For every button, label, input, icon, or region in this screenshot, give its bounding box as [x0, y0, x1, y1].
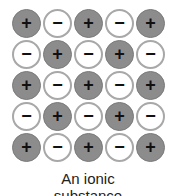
plus-icon: +	[52, 107, 63, 125]
anion-ion: −	[105, 71, 134, 100]
cation-ion: +	[12, 133, 41, 162]
minus-icon: −	[52, 76, 63, 94]
cation-ion: +	[105, 102, 134, 131]
anion-ion: −	[105, 133, 134, 162]
minus-icon: −	[21, 45, 32, 63]
anion-ion: −	[136, 40, 165, 69]
cation-ion: +	[12, 9, 41, 38]
cation-ion: +	[136, 133, 165, 162]
anion-ion: −	[136, 102, 165, 131]
plus-icon: +	[21, 76, 32, 94]
plus-icon: +	[83, 14, 94, 32]
cation-ion: +	[74, 9, 103, 38]
minus-icon: −	[52, 14, 63, 32]
minus-icon: −	[114, 14, 125, 32]
anion-ion: −	[74, 102, 103, 131]
plus-icon: +	[145, 14, 156, 32]
anion-ion: −	[105, 9, 134, 38]
minus-icon: −	[52, 138, 63, 156]
caption-line-1: An ionic	[0, 170, 176, 187]
minus-icon: −	[83, 45, 94, 63]
plus-icon: +	[145, 138, 156, 156]
cation-ion: +	[43, 40, 72, 69]
cation-ion: +	[105, 40, 134, 69]
cation-ion: +	[136, 9, 165, 38]
anion-ion: −	[12, 102, 41, 131]
anion-ion: −	[43, 71, 72, 100]
cation-ion: +	[43, 102, 72, 131]
cation-ion: +	[12, 71, 41, 100]
minus-icon: −	[83, 107, 94, 125]
plus-icon: +	[21, 14, 32, 32]
minus-icon: −	[145, 45, 156, 63]
minus-icon: −	[114, 76, 125, 94]
plus-icon: +	[145, 76, 156, 94]
plus-icon: +	[21, 138, 32, 156]
anion-ion: −	[74, 40, 103, 69]
cation-ion: +	[74, 71, 103, 100]
plus-icon: +	[83, 138, 94, 156]
plus-icon: +	[83, 76, 94, 94]
minus-icon: −	[145, 107, 156, 125]
minus-icon: −	[114, 138, 125, 156]
cation-ion: +	[136, 71, 165, 100]
anion-ion: −	[43, 9, 72, 38]
anion-ion: −	[12, 40, 41, 69]
plus-icon: +	[114, 45, 125, 63]
anion-ion: −	[43, 133, 72, 162]
ionic-lattice: +−+−+−+−+−+−+−+−+−+−+−+−+	[12, 9, 167, 164]
cation-ion: +	[74, 133, 103, 162]
minus-icon: −	[21, 107, 32, 125]
plus-icon: +	[52, 45, 63, 63]
plus-icon: +	[114, 107, 125, 125]
caption-line-2: substance	[0, 187, 176, 196]
